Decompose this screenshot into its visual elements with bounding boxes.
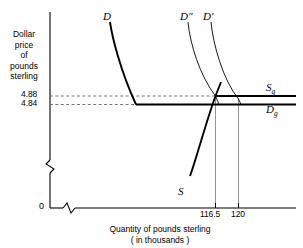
xtick-label-116-5: 116.5 [200,210,220,219]
y-axis-title-line-5: sterling [2,71,46,82]
curve-label-D: D [103,11,111,23]
x-axis-title-line-2: ( in thousands ) [60,235,260,246]
curve-label-Sg: Sg [266,82,275,96]
x-axis-break-icon [63,203,75,213]
curve-label-S: S [178,186,184,198]
exchange-rate-chart: Dollar price of pounds sterling 4.88 4.8… [0,0,303,248]
x-axis-title: Quantity of pounds sterling ( in thousan… [60,224,260,246]
curve-label-Sg-sub: g [272,87,276,96]
curve-label-D-double-prime: D″ [180,11,193,23]
curve-label-Dg-main: D [266,103,274,115]
ytick-label-4-84: 4.84 [21,99,37,108]
y-axis-break-icon [46,160,54,173]
curve-label-Dg-sub: g [274,109,278,118]
y-axis-title-line-3: of [2,50,46,61]
y-axis-title-line-2: price [2,40,46,51]
xtick-label-120: 120 [231,210,245,219]
origin-label: 0 [39,202,44,212]
curve-D [110,22,136,105]
y-axis-title: Dollar price of pounds sterling [2,29,46,82]
curve-label-D-prime: D′ [203,11,213,23]
curve-D-double-prime [188,22,219,105]
curve-label-Dg: Dg [266,104,278,118]
curve-D-prime [211,22,241,105]
y-axis-title-line-4: pounds [2,61,46,72]
y-axis-title-line-1: Dollar [2,29,46,40]
curve-S-upper [216,82,222,96]
curve-S [190,96,216,176]
x-axis-title-line-1: Quantity of pounds sterling [60,224,260,235]
